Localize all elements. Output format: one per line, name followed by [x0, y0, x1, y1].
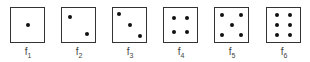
pip-dot	[275, 33, 279, 37]
die-face-6	[266, 7, 301, 43]
face-label-subscript: 5	[231, 52, 235, 59]
pip-dot	[275, 13, 279, 17]
pip-dot	[85, 32, 89, 36]
face-label-subscript: 1	[27, 52, 31, 59]
pip-dot	[220, 13, 224, 17]
die-face-4	[163, 7, 198, 43]
face-label: f6	[266, 46, 302, 59]
die-face-3	[112, 7, 147, 43]
face-label: f2	[61, 46, 97, 59]
pip-dot	[185, 30, 189, 34]
pip-dot	[288, 13, 292, 17]
die-face-2	[61, 7, 96, 43]
face-label-subscript: 2	[78, 52, 82, 59]
pip-dot	[185, 16, 189, 20]
face-label-subscript: 6	[283, 52, 287, 59]
pip-dot	[172, 30, 176, 34]
face-label-subscript: 4	[180, 52, 184, 59]
face-label: f5	[214, 46, 250, 59]
pip-dot	[172, 16, 176, 20]
face-label-subscript: 3	[129, 52, 133, 59]
pip-dot	[138, 34, 142, 38]
pip-dot	[117, 12, 121, 16]
pip-dot	[288, 33, 292, 37]
face-label: f1	[10, 46, 46, 59]
face-label: f3	[112, 46, 148, 59]
pip-dot	[26, 23, 30, 27]
pip-dot	[230, 23, 234, 27]
die-face-1	[10, 7, 45, 43]
die-face-5	[214, 7, 249, 43]
pip-dot	[128, 23, 132, 27]
pip-dot	[275, 23, 279, 27]
pip-dot	[220, 33, 224, 37]
pip-dot	[239, 13, 243, 17]
pip-dot	[68, 15, 72, 19]
face-label: f4	[163, 46, 199, 59]
pip-dot	[239, 33, 243, 37]
pip-dot	[288, 23, 292, 27]
